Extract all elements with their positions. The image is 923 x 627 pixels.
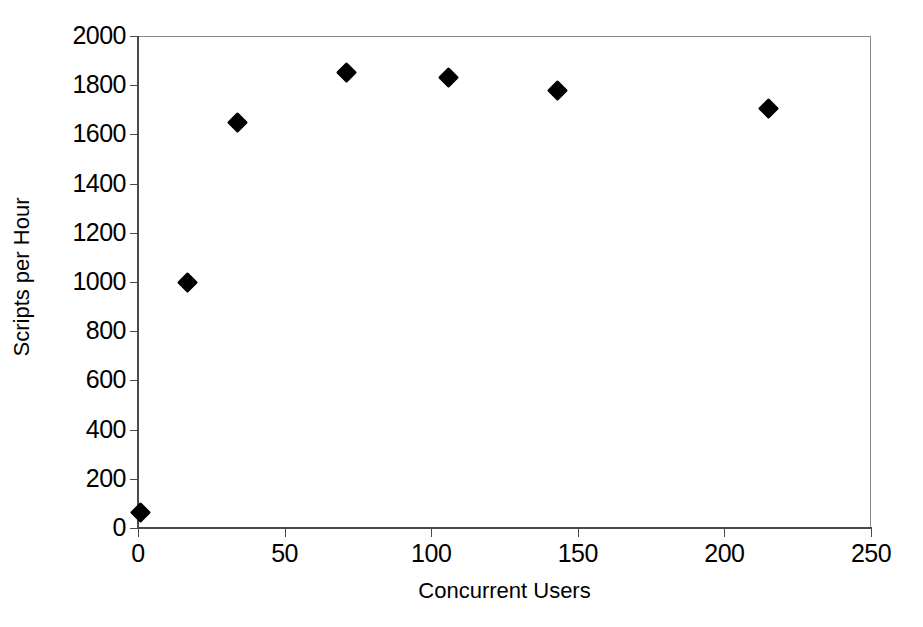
scatter-chart: 0200400600800100012001400160018002000 05… xyxy=(0,0,923,627)
y-tick-mark xyxy=(130,134,138,135)
x-tick-label: 50 xyxy=(225,540,345,567)
y-tick-label: 2000 xyxy=(0,23,126,48)
x-tick-label: 150 xyxy=(518,540,638,567)
y-tick-label: 200 xyxy=(0,466,126,491)
y-tick-label: 400 xyxy=(0,417,126,442)
x-tick-mark xyxy=(871,529,872,537)
y-tick-mark xyxy=(130,233,138,234)
y-tick-mark xyxy=(130,380,138,381)
x-tick-label: 100 xyxy=(371,540,491,567)
y-tick-mark xyxy=(130,184,138,185)
x-tick-mark xyxy=(724,529,725,537)
y-tick-mark xyxy=(130,528,138,529)
y-tick-mark xyxy=(130,430,138,431)
x-tick-mark xyxy=(431,529,432,537)
y-tick-label: 0 xyxy=(0,515,126,540)
y-tick-label: 1600 xyxy=(0,121,126,146)
y-tick-mark xyxy=(130,85,138,86)
x-axis-title: Concurrent Users xyxy=(138,578,871,604)
x-tick-label: 250 xyxy=(811,540,923,567)
y-tick-mark xyxy=(130,331,138,332)
x-tick-mark xyxy=(285,529,286,537)
y-axis-title: Scripts per Hour xyxy=(9,167,35,387)
x-tick-label: 200 xyxy=(664,540,784,567)
y-tick-mark xyxy=(130,36,138,37)
x-tick-mark xyxy=(138,529,139,537)
y-tick-label: 1800 xyxy=(0,72,126,97)
x-tick-label: 0 xyxy=(78,540,198,567)
y-tick-mark xyxy=(130,479,138,480)
x-axis-line xyxy=(137,527,872,529)
y-tick-mark xyxy=(130,282,138,283)
x-tick-mark xyxy=(578,529,579,537)
